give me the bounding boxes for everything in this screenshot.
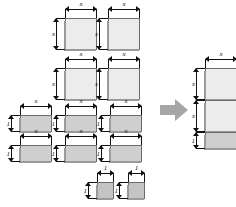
stack-width-arrow-right	[233, 56, 236, 62]
unit-tile	[128, 182, 145, 199]
x-tile-width-dimension-line	[110, 136, 142, 137]
x-squared-tile-height-arrow-bottom	[96, 46, 102, 50]
x-tile-height-label: 1	[7, 120, 11, 127]
transformation-arrow	[160, 99, 188, 121]
unit-tile-height-dimension-line	[119, 182, 120, 199]
x-tile-height-arrow-bottom	[8, 158, 14, 162]
x-squared-tile-width-label: x	[122, 1, 125, 8]
x-tile-width-arrow-right	[138, 103, 142, 109]
x-tile-height-arrow-bottom	[8, 128, 14, 132]
x-squared-tile-height-dimension-line	[56, 18, 57, 50]
unit-tile-height-dimension-line	[88, 182, 89, 199]
x-tile-height-dimension-line	[56, 145, 57, 162]
algebra-tiles-diagram: xxxxxxxxx1x1x1x1x1x11111xx1x	[0, 0, 236, 207]
x-squared-tile-width-arrow-left	[108, 6, 112, 12]
x-squared-tile-height-arrow-bottom	[53, 96, 59, 100]
x-tile-height-dimension-line	[11, 145, 12, 162]
x-squared-tile-width-arrow-left	[108, 56, 112, 62]
stack-segment-height-arrow-top	[193, 68, 199, 72]
unit-tile-width-arrow-right	[110, 170, 114, 176]
x-tile-height-arrow-bottom	[53, 128, 59, 132]
x-squared-tile	[108, 68, 140, 100]
stack-segment-height-dimension-line	[196, 100, 197, 132]
x-tile-height-label: 1	[97, 150, 101, 157]
unit-tile-width-dimension-line	[97, 173, 114, 174]
x-tile-width-arrow-left	[20, 133, 24, 139]
x-squared-tile-height-arrow-bottom	[53, 46, 59, 50]
x-squared-tile-width-arrow-right	[136, 56, 140, 62]
x-squared-tile-height-dimension-line	[56, 68, 57, 100]
unit-tile-height-arrow-bottom	[116, 195, 122, 199]
x-squared-tile	[108, 18, 140, 50]
x-tile-width-label: x	[34, 128, 37, 135]
stack-width-arrow-left	[205, 56, 209, 62]
x-squared-tile-height-arrow-top	[53, 68, 59, 72]
x-tile-width-label: x	[124, 128, 127, 135]
x-tile-width-dimension-line	[20, 106, 52, 107]
unit-tile-height-label: 1	[115, 187, 119, 194]
x-tile-width-dimension-line	[110, 106, 142, 107]
unit-tile-width-arrow-left	[97, 170, 101, 176]
x-tile-width-arrow-right	[138, 133, 142, 139]
stack-segment-height-arrow-top	[193, 100, 199, 104]
x-tile-width-label: x	[124, 98, 127, 105]
x-tile-width-dimension-line	[65, 106, 97, 107]
unit-tile-height-arrow-bottom	[85, 195, 91, 199]
stack-segment	[205, 132, 236, 149]
x-squared-tile-height-arrow-top	[53, 18, 59, 22]
x-tile-width-label: x	[79, 98, 82, 105]
x-tile-width-label: x	[34, 98, 37, 105]
x-tile	[110, 145, 142, 162]
x-squared-tile-height-label: x	[52, 31, 55, 38]
x-squared-tile-width-arrow-right	[136, 6, 140, 12]
unit-tile-height-label: 1	[84, 187, 88, 194]
x-tile-width-dimension-line	[65, 136, 97, 137]
x-squared-tile-height-arrow-top	[96, 68, 102, 72]
unit-tile-width-dimension-line	[128, 173, 145, 174]
x-tile-width-arrow-left	[65, 103, 69, 109]
x-tile-width-arrow-right	[93, 133, 97, 139]
x-squared-tile-width-label: x	[79, 1, 82, 8]
unit-tile-width-label: 1	[135, 165, 139, 172]
x-tile-width-arrow-left	[110, 133, 114, 139]
x-tile-width-arrow-left	[110, 103, 114, 109]
x-tile	[65, 145, 97, 162]
stack-segment-height-label: x	[192, 81, 195, 88]
x-tile-height-arrow-bottom	[53, 158, 59, 162]
unit-tile-width-arrow-left	[128, 170, 132, 176]
x-tile-width-label: x	[79, 128, 82, 135]
unit-tile-width-label: 1	[104, 165, 108, 172]
x-tile-height-label: 1	[7, 150, 11, 157]
x-squared-tile	[65, 18, 97, 50]
x-tile-height-label: 1	[52, 150, 56, 157]
x-tile-height-dimension-line	[56, 115, 57, 132]
stack-segment-height-label: 1	[192, 137, 196, 144]
stack-segment-height-dimension-line	[196, 132, 197, 149]
x-squared-tile-width-label: x	[122, 51, 125, 58]
x-tile	[20, 145, 52, 162]
x-squared-tile-height-dimension-line	[99, 18, 100, 50]
x-tile-height-label: 1	[97, 120, 101, 127]
x-tile-width-arrow-left	[20, 103, 24, 109]
x-squared-tile-width-arrow-left	[65, 56, 69, 62]
x-squared-tile-width-dimension-line	[65, 59, 97, 60]
stack-segment-height-dimension-line	[196, 68, 197, 100]
x-tile-height-dimension-line	[11, 115, 12, 132]
x-squared-tile-height-arrow-bottom	[96, 96, 102, 100]
x-squared-tile-height-label: x	[95, 81, 98, 88]
x-tile-height-dimension-line	[101, 145, 102, 162]
unit-tile-width-arrow-right	[141, 170, 145, 176]
x-squared-tile-width-arrow-right	[93, 56, 97, 62]
x-tile-width-arrow-left	[65, 133, 69, 139]
stack-segment-height-label: x	[192, 113, 195, 120]
x-squared-tile-width-label: x	[79, 51, 82, 58]
x-squared-tile-width-dimension-line	[108, 59, 140, 60]
x-tile-width-dimension-line	[20, 136, 52, 137]
x-squared-tile-height-label: x	[52, 81, 55, 88]
stack-width-label: x	[219, 51, 222, 58]
x-tile-width-arrow-right	[48, 103, 52, 109]
x-tile-height-dimension-line	[101, 115, 102, 132]
unit-tile	[97, 182, 114, 199]
x-tile-height-label: 1	[52, 120, 56, 127]
stack-width-dimension-line	[205, 59, 236, 60]
